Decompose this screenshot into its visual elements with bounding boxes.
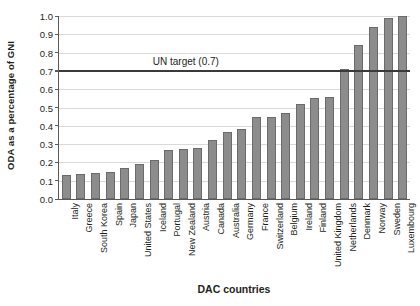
bar: [106, 172, 115, 199]
x-tick-label: Canada: [216, 203, 226, 235]
x-tick-label-text: Spain: [114, 203, 124, 226]
bar: [369, 27, 378, 199]
y-tick-label: 0.4: [40, 120, 53, 131]
bar: [325, 97, 334, 199]
y-tick-label: 1.0: [40, 11, 53, 22]
x-tick-label-text: Luxembourg: [406, 203, 416, 253]
y-tick-mark: [55, 52, 59, 53]
x-tick-label-text: South Korea: [99, 203, 109, 253]
x-tick-label: New Zealand: [187, 203, 197, 256]
x-tick-label-text: Switzerland: [275, 203, 285, 250]
x-tick-label: Spain: [114, 203, 124, 226]
x-tick-label-text: Australia: [231, 203, 241, 238]
bar: [223, 132, 232, 199]
x-tick-label: Australia: [231, 203, 241, 238]
y-axis-title: ODA as a percentage of GNI: [0, 0, 20, 210]
bar: [267, 117, 276, 199]
bar: [384, 18, 393, 199]
x-tick-label: Austria: [201, 203, 211, 231]
gridline: [59, 16, 410, 17]
bar: [340, 69, 349, 199]
x-tick-label: Norway: [377, 203, 387, 234]
un-target-label: UN target (0.7): [153, 56, 219, 67]
bar: [237, 129, 246, 199]
x-tick-label-text: Sweden: [392, 203, 402, 236]
bar: [179, 149, 188, 199]
x-tick-label: United States: [143, 203, 153, 257]
bar: [398, 16, 407, 199]
y-tick-label: 0.1: [40, 175, 53, 186]
x-tick-label-text: Iceland: [158, 203, 168, 232]
bar: [150, 160, 159, 199]
bar: [252, 117, 261, 199]
y-tick-label: 0.2: [40, 157, 53, 168]
x-tick-label-text: Ireland: [304, 203, 314, 231]
bar: [193, 148, 202, 199]
y-tick-label: 0.7: [40, 65, 53, 76]
y-tick-mark: [55, 144, 59, 145]
y-tick-label: 0.6: [40, 84, 53, 95]
y-tick-label: 0.8: [40, 47, 53, 58]
bar: [76, 174, 85, 199]
y-tick-label: 0.5: [40, 102, 53, 113]
y-tick-label: 0.3: [40, 139, 53, 150]
bar: [208, 140, 217, 199]
x-tick-label: France: [260, 203, 270, 231]
y-tick-label: 0.9: [40, 29, 53, 40]
bar: [62, 175, 71, 199]
x-tick-label: Belgium: [289, 203, 299, 236]
x-tick-label-text: Norway: [377, 203, 387, 234]
x-tick-label-text: Canada: [216, 203, 226, 235]
x-tick-label: Denmark: [362, 203, 372, 240]
x-tick-label: Sweden: [392, 203, 402, 236]
x-tick-label-text: Austria: [201, 203, 211, 231]
x-tick-label-text: Netherlands: [348, 203, 358, 252]
x-tick-label-text: Greece: [84, 203, 94, 233]
x-tick-label-text: United Kingdom: [333, 203, 343, 267]
x-tick-label: Switzerland: [275, 203, 285, 250]
y-tick-mark: [55, 199, 59, 200]
x-tick-label: Finland: [318, 203, 328, 233]
bar-chart: ODA as a percentage of GNI 0.00.10.20.30…: [0, 0, 420, 306]
x-tick-label: Japan: [128, 203, 138, 228]
x-axis-title: DAC countries: [58, 283, 410, 295]
x-tick-label: Greece: [84, 203, 94, 233]
y-tick-mark: [55, 16, 59, 17]
bar: [354, 45, 363, 199]
x-tick-label-text: Italy: [70, 203, 80, 220]
x-tick-label-text: United States: [143, 203, 153, 257]
x-tick-label: Iceland: [158, 203, 168, 232]
x-tick-label-text: Germany: [245, 203, 255, 240]
y-axis-title-text: ODA as a percentage of GNI: [5, 41, 16, 170]
bar: [135, 164, 144, 199]
y-tick-mark: [55, 125, 59, 126]
y-tick-mark: [55, 162, 59, 163]
x-tick-label: Portugal: [172, 203, 182, 237]
bar: [310, 98, 319, 199]
x-tick-label-text: Portugal: [172, 203, 182, 237]
y-tick-mark: [55, 34, 59, 35]
x-tick-label-text: Denmark: [362, 203, 372, 240]
x-tick-label-text: New Zealand: [187, 203, 197, 256]
x-tick-label: United Kingdom: [333, 203, 343, 267]
bar: [164, 150, 173, 199]
y-tick-label: 0.0: [40, 194, 53, 205]
x-tick-label: Luxembourg: [406, 203, 416, 253]
x-tick-label-text: Belgium: [289, 203, 299, 236]
y-tick-mark: [55, 89, 59, 90]
bar: [91, 173, 100, 199]
x-tick-label: Ireland: [304, 203, 314, 231]
y-tick-mark: [55, 107, 59, 108]
x-tick-label: Netherlands: [348, 203, 358, 252]
bar: [120, 168, 129, 199]
x-tick-label-text: Finland: [318, 203, 328, 233]
x-tick-label: Germany: [245, 203, 255, 240]
gridline: [59, 34, 410, 35]
x-tick-label-text: France: [260, 203, 270, 231]
bar: [296, 104, 305, 199]
x-tick-label: Italy: [70, 203, 80, 220]
un-target-line: [59, 70, 410, 72]
y-tick-mark: [55, 180, 59, 181]
bar: [281, 113, 290, 199]
x-tick-label: South Korea: [99, 203, 109, 253]
